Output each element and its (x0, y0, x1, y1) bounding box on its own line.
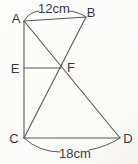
measure-brace-18cm-1 (24, 138, 60, 152)
point-label-C: C (9, 131, 18, 146)
point-label-F: F (67, 60, 75, 75)
measure-brace-18cm-2 (89, 138, 120, 150)
segment-AB (24, 17, 86, 21)
figure-container: 12cm18cmABCDEF (0, 0, 138, 164)
point-label-A: A (12, 11, 21, 26)
measure-brace-12cm-1 (24, 11, 39, 21)
measurement-label-12cm: 12cm (38, 1, 70, 16)
point-label-E: E (11, 61, 20, 76)
segment-BC (24, 17, 86, 138)
point-label-B: B (87, 5, 96, 20)
point-label-D: D (123, 131, 132, 146)
measure-brace-12cm-2 (69, 11, 86, 17)
geometry-diagram: 12cm18cmABCDEF (0, 0, 138, 164)
segment-AD (24, 21, 120, 138)
measurement-label-18cm: 18cm (59, 146, 91, 161)
